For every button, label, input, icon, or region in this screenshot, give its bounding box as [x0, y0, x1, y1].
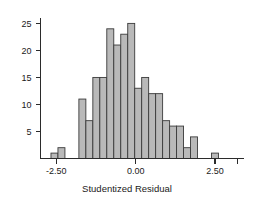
histogram-bar — [177, 126, 184, 158]
histogram-chart: 510152025 -2.500.002.50 Studentized Resi… — [0, 0, 253, 198]
histogram-bar — [170, 126, 177, 158]
histogram-bar — [114, 45, 121, 158]
histogram-bar — [128, 23, 135, 158]
x-tick-label: 0.00 — [127, 166, 145, 176]
histogram-plot-area: 510152025 -2.500.002.50 Studentized Resi… — [0, 0, 253, 198]
histogram-bar — [211, 153, 218, 158]
histogram-bar — [142, 77, 149, 158]
histogram-bar — [79, 99, 86, 158]
histogram-bar — [100, 77, 107, 158]
histogram-bars — [51, 23, 218, 158]
histogram-bar — [51, 153, 58, 158]
y-tick-label: 10 — [21, 100, 31, 110]
y-tick-label: 15 — [21, 73, 31, 83]
histogram-bar — [93, 77, 100, 158]
y-tick-label: 25 — [21, 19, 31, 29]
y-tick-label: 20 — [21, 46, 31, 56]
x-tick-label: -2.50 — [46, 166, 67, 176]
histogram-bar — [135, 88, 142, 158]
x-axis-ticks: -2.500.002.50 — [46, 159, 237, 176]
histogram-bar — [107, 29, 114, 159]
histogram-bar — [86, 121, 93, 159]
y-tick-label: 5 — [26, 127, 31, 137]
histogram-bar — [121, 34, 128, 158]
x-tick-label: 2.50 — [206, 166, 224, 176]
histogram-bar — [156, 94, 163, 159]
y-axis-ticks: 510152025 — [21, 19, 40, 137]
x-axis-title: Studentized Residual — [82, 183, 172, 194]
histogram-bar — [58, 148, 65, 159]
histogram-bar — [191, 137, 198, 159]
histogram-bar — [163, 121, 170, 159]
histogram-bar — [184, 148, 191, 159]
histogram-bar — [149, 94, 156, 159]
